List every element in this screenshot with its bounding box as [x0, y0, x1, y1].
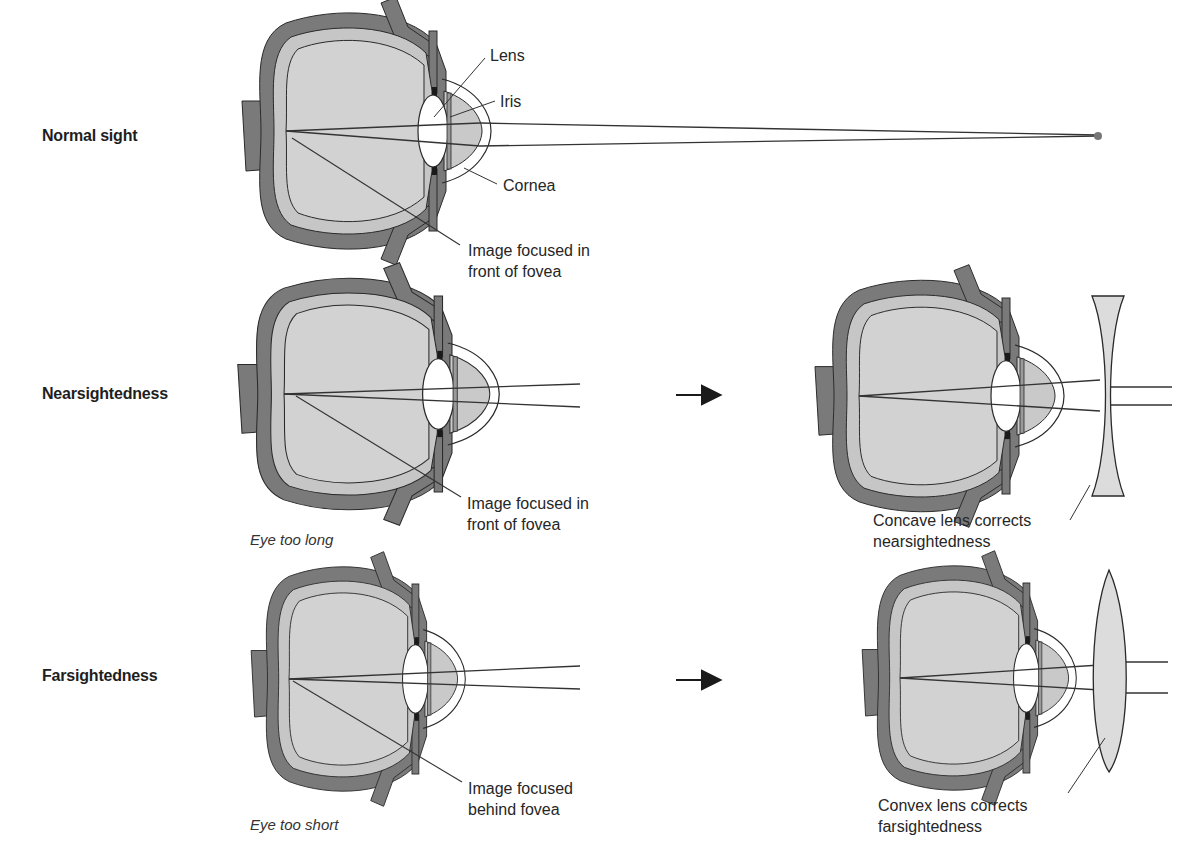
callout-concave-correction: Concave lens corrects nearsightedness	[873, 510, 1031, 552]
callout-nearsighted-focus-line2: front of fovea	[467, 514, 589, 535]
caption-eye-too-short: Eye too short	[250, 816, 338, 833]
concave-lens	[1092, 296, 1124, 496]
convex-lens	[1093, 570, 1126, 772]
callout-farsighted-focus: Image focused behind fovea	[468, 778, 573, 820]
callout-normal-focus: Image focused in front of fovea	[468, 240, 590, 282]
nearsighted-eye	[238, 263, 580, 526]
eye-diagram-canvas	[0, 0, 1198, 864]
normal-eye	[242, 0, 1102, 265]
callout-farsighted-focus-line1: Image focused	[468, 778, 573, 799]
callout-nearsighted-focus: Image focused in front of fovea	[467, 493, 589, 535]
callout-convex-correction: Convex lens corrects farsightedness	[878, 795, 1027, 837]
farsighted-eye	[251, 552, 580, 807]
callout-normal-focus-line1: Image focused in	[468, 240, 590, 261]
callout-lens: Lens	[490, 45, 525, 66]
row-label-nearsightedness: Nearsightedness	[42, 385, 168, 403]
callout-convex-line1: Convex lens corrects	[878, 795, 1027, 816]
farsighted-corrected-eye	[862, 551, 1168, 806]
callout-normal-focus-line2: front of fovea	[468, 261, 590, 282]
object-point	[1094, 132, 1102, 140]
callout-iris: Iris	[500, 91, 521, 112]
callout-concave-line2: nearsightedness	[873, 531, 1031, 552]
callout-cornea: Cornea	[503, 175, 555, 196]
row-label-farsightedness: Farsightedness	[42, 667, 157, 685]
callout-nearsighted-focus-line1: Image focused in	[467, 493, 589, 514]
callout-convex-line2: farsightedness	[878, 816, 1027, 837]
nearsighted-corrected-eye	[815, 265, 1172, 528]
callout-farsighted-focus-line2: behind fovea	[468, 799, 573, 820]
caption-eye-too-long: Eye too long	[250, 531, 333, 548]
row-label-normal-sight: Normal sight	[42, 127, 137, 145]
callout-concave-line1: Concave lens corrects	[873, 510, 1031, 531]
